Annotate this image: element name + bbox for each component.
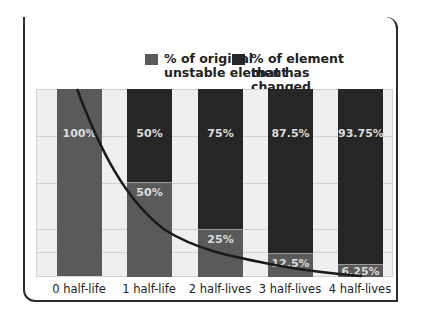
- x-axis-label: 4 half-lives: [320, 282, 400, 296]
- x-axis-label: 1 half-life: [109, 282, 189, 296]
- x-axis-label: 2 half-lives: [180, 282, 260, 296]
- x-axis-label: 3 half-lives: [250, 282, 330, 296]
- x-axis-label: 0 half-life: [39, 282, 119, 296]
- decay-curve: [0, 0, 431, 316]
